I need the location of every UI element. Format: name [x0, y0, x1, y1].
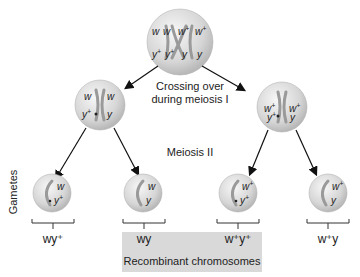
gene-label: w [152, 26, 160, 37]
top-cell: w w w+ w+ y+ y+ y y [147, 9, 213, 75]
arrow-icon [296, 130, 316, 174]
arrow-icon [250, 130, 268, 174]
gene-label: w [163, 26, 171, 37]
gene-label: w [84, 91, 92, 102]
crossing-over-line2: during meiosis I [140, 93, 240, 106]
gamete-4: w+ y [309, 174, 347, 212]
crossing-over-line1: Crossing over [140, 80, 240, 93]
gene-label: w [107, 91, 115, 102]
gene-label: y [106, 109, 113, 120]
gamete-4-genotype: w⁺y [303, 232, 353, 246]
gametes-label: Gametes [7, 167, 19, 217]
gamete-3-genotype: w⁺y⁺ [213, 232, 263, 246]
gamete-1: w y+ [33, 174, 71, 212]
gamete-1-genotype: wy⁺ [28, 232, 78, 246]
arrow-icon [114, 128, 138, 174]
gene-label: y [181, 49, 188, 60]
recombinant-chromosomes-label: Recombinant chromosomes [122, 255, 262, 267]
gamete-2-genotype: wy [119, 232, 169, 246]
meiosis1-cell-left: w w y+ y [75, 80, 125, 130]
bracket-icon [32, 219, 349, 229]
gene-label: y [145, 195, 152, 206]
crossing-over-label: Crossing over during meiosis I [140, 80, 240, 106]
gamete-3: w+ y+ [219, 174, 257, 212]
gene-label: y [330, 195, 337, 206]
arrow-icon [56, 128, 86, 178]
gamete-2: w y [124, 174, 162, 212]
gene-label: y [196, 49, 203, 60]
meiosis1-cell-right: w+ w+ y+ y [257, 82, 307, 132]
gene-label: w [148, 181, 156, 192]
gene-label: w [57, 181, 65, 192]
gene-label: y [289, 112, 296, 123]
meiosis2-label: Meiosis II [150, 146, 230, 159]
